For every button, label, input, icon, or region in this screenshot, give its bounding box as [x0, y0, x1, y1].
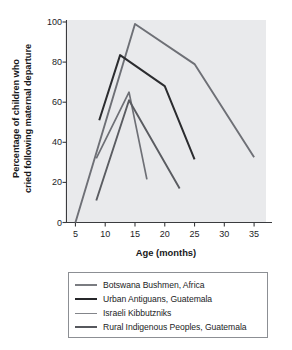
x-tick-label: 15: [123, 229, 147, 239]
legend-swatch-icon: [75, 284, 97, 286]
x-tick-label: 10: [93, 229, 117, 239]
chart-legend: Botswana Bushmen, AfricaUrban Antiguans,…: [68, 272, 268, 338]
legend-swatch-icon: [75, 326, 97, 328]
legend-swatch-icon: [75, 313, 97, 314]
x-tick-label: 30: [212, 229, 236, 239]
legend-label: Botswana Bushmen, Africa: [103, 280, 205, 290]
legend-item-1: Urban Antiguans, Guatemala: [69, 292, 267, 306]
legend-label: Rural Indigenous Peoples, Guatemala: [103, 322, 246, 332]
x-tick-label: 25: [183, 229, 207, 239]
legend-label: Urban Antiguans, Guatemala: [103, 294, 212, 304]
legend-item-3: Rural Indigenous Peoples, Guatemala: [69, 320, 267, 334]
x-tick-label: 35: [242, 229, 266, 239]
legend-item-0: Botswana Bushmen, Africa: [69, 278, 267, 292]
plot-background: [68, 20, 266, 222]
legend-item-2: Israeli Kibbutzniks: [69, 306, 267, 320]
x-axis-label: Age (months): [66, 247, 266, 258]
legend-label: Israeli Kibbutzniks: [103, 308, 171, 318]
legend-swatch-icon: [75, 298, 97, 300]
x-tick-label: 5: [63, 229, 87, 239]
figure: Percentage of children who cried followi…: [0, 0, 292, 350]
x-tick-label: 20: [153, 229, 177, 239]
